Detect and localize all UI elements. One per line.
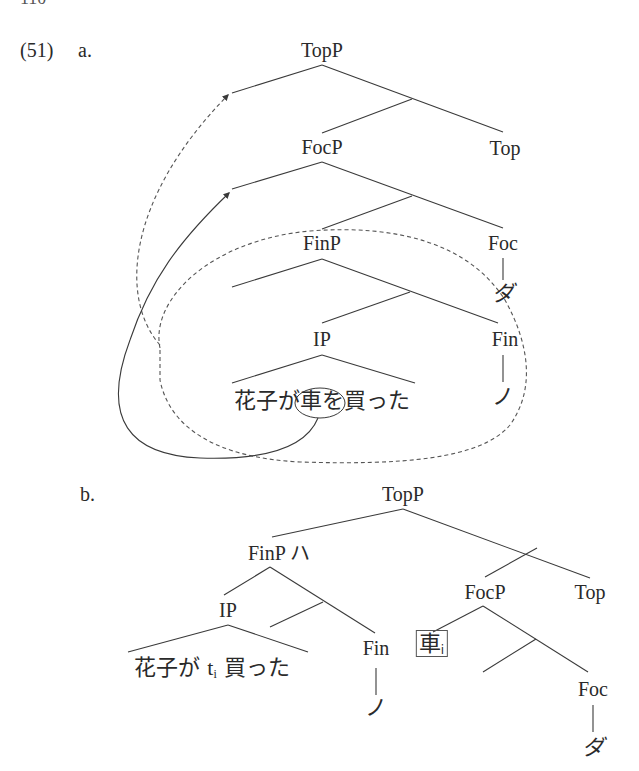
node-a-fin-head: ノ (492, 386, 514, 408)
boxed-item-text: 車 (419, 631, 441, 656)
node-a-foc-head: ダ (492, 283, 514, 305)
sentence-b-post: 買った (217, 655, 290, 680)
sentence-a-post: 買った (344, 388, 410, 413)
dashed-enclosure (159, 230, 527, 463)
node-a-fin: Fin (492, 329, 519, 349)
node-b-ip: IP (219, 600, 237, 620)
boxed-moved-item: 車i (416, 633, 448, 656)
sentence-b-pre: 花子が (134, 655, 207, 680)
boxed-item-frame: 車i (416, 630, 448, 657)
node-b-finp-ha: FinP ハ (248, 543, 310, 563)
node-b-fin: Fin (363, 638, 390, 658)
node-b-top: Top (575, 582, 606, 602)
sentence-a-pre: 花子が (234, 388, 300, 413)
node-b-foc: Foc (578, 679, 608, 699)
node-b-fin-head: ノ (365, 697, 387, 719)
sentence-b: 花子が ti 買った (134, 657, 289, 680)
solid-movement-arrow (118, 193, 318, 458)
node-a-focp: FocP (301, 137, 342, 157)
node-b-foc-head: ダ (582, 737, 604, 759)
sentence-a-circled: 車を (300, 388, 344, 413)
node-a-topp: TopP (301, 40, 343, 60)
tree-b (128, 509, 593, 732)
node-b-topp: TopP (382, 484, 424, 504)
sentence-a: 花子が車を買った (234, 390, 410, 412)
node-a-foc: Foc (488, 233, 518, 253)
syntax-tree-lines (0, 0, 639, 771)
boxed-item-index: i (441, 643, 444, 657)
node-a-finp: FinP (303, 233, 341, 253)
node-a-ip: IP (313, 329, 331, 349)
node-a-top: Top (490, 138, 521, 158)
dashed-movement-arrow (137, 95, 228, 345)
node-b-focp: FocP (464, 582, 505, 602)
